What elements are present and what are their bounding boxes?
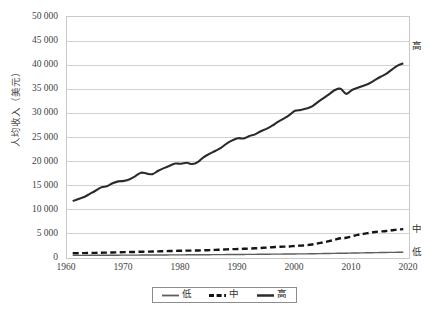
legend-label: 高 [277, 290, 287, 300]
series-end-label: 低 [412, 244, 422, 258]
plot-area [66, 16, 410, 259]
y-axis-tick-label: 50 000 [32, 11, 58, 21]
y-axis-tick-label: 20 000 [32, 156, 58, 166]
series-end-label: 中 [412, 221, 422, 235]
chart-legend: 低中高 [152, 287, 297, 303]
chart-container: 人均收入（美元） 05 00010 00015 00020 00025 0003… [0, 0, 429, 310]
series-line [73, 229, 404, 253]
y-axis-tick-label: 25 000 [32, 132, 58, 142]
y-axis-tick-label: 10 000 [32, 204, 58, 214]
y-axis-tick-label: 5 000 [37, 228, 58, 238]
x-axis-tick-labels: 1960197019801990200020102020 [0, 262, 429, 282]
x-axis-tick-label: 2020 [399, 262, 418, 272]
legend-item[interactable]: 中 [209, 290, 239, 300]
legend-label: 中 [229, 290, 239, 300]
series-line [73, 63, 404, 201]
legend-swatch-icon [162, 291, 179, 300]
series-end-label: 高 [412, 38, 422, 52]
x-axis-tick-label: 1960 [57, 262, 76, 272]
y-axis-tick-label: 30 000 [32, 107, 58, 117]
y-axis-tick-label: 45 000 [32, 35, 58, 45]
legend-item[interactable]: 高 [257, 290, 287, 300]
x-axis-tick-label: 2010 [342, 262, 361, 272]
x-axis-tick-label: 2000 [285, 262, 304, 272]
x-axis-tick-label: 1970 [114, 262, 133, 272]
x-axis-tick-label: 1990 [228, 262, 247, 272]
y-axis-tick-label: 0 [53, 252, 58, 262]
legend-swatch-icon [257, 291, 274, 300]
legend-label: 低 [182, 290, 192, 300]
legend-item[interactable]: 低 [162, 290, 192, 300]
x-axis-tick-label: 1980 [171, 262, 190, 272]
plot-svg [67, 17, 409, 258]
y-axis-tick-label: 15 000 [32, 180, 58, 190]
y-axis-tick-labels: 05 00010 00015 00020 00025 00030 00035 0… [0, 0, 62, 270]
y-axis-tick-label: 35 000 [32, 83, 58, 93]
y-axis-tick-label: 40 000 [32, 59, 58, 69]
legend-swatch-icon [209, 291, 226, 300]
